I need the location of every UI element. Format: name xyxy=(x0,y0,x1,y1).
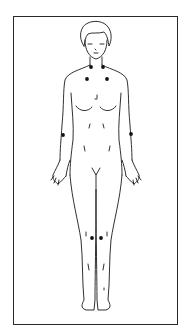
marker-knee-left xyxy=(90,236,94,240)
marker-elbow-right xyxy=(129,132,133,136)
right-leg xyxy=(96,175,122,310)
marker-neck-left xyxy=(89,65,93,69)
marker-elbow-left xyxy=(61,133,65,137)
torso-left xyxy=(60,65,90,175)
neck xyxy=(90,57,102,65)
marker-upper-chest-right xyxy=(105,77,109,81)
torso-right xyxy=(102,65,132,175)
marker-neck-right xyxy=(101,65,105,69)
marker-knee-right xyxy=(99,236,103,240)
body-figure xyxy=(0,0,190,336)
left-leg xyxy=(70,175,96,310)
marker-upper-chest-left xyxy=(85,77,89,81)
